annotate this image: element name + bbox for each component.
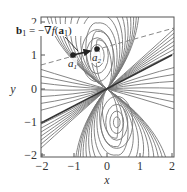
x-tick: −2 [36, 159, 49, 173]
y-tick: −2 [24, 148, 37, 162]
y-tick: 0 [31, 82, 37, 96]
y-tick-labels: 2 1 0 −1 −2 [24, 15, 37, 162]
y-tick: 1 [31, 48, 37, 62]
x-tick-labels: −2 −1 0 1 2 [36, 159, 175, 173]
x-axis-label: x [103, 173, 110, 187]
x-tick: 0 [104, 159, 110, 173]
y-tick: −1 [24, 115, 37, 129]
x-tick: −1 [68, 159, 81, 173]
x-tick: 2 [169, 159, 175, 173]
contour-figure: −2 −1 0 1 2 2 1 0 −1 −2 x y b1 = −∇f(a1)… [0, 0, 187, 192]
y-axis-label: y [9, 82, 16, 96]
x-tick: 1 [137, 159, 143, 173]
